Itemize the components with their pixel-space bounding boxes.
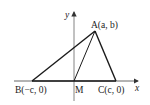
- segment-ab: [32, 31, 95, 81]
- y-axis-label: y: [64, 10, 70, 20]
- point-b-label: B(−c, 0): [15, 85, 47, 96]
- point-c-label: C(c, 0): [98, 85, 124, 96]
- segment-ac: [95, 31, 116, 81]
- x-axis-label: x: [134, 83, 140, 93]
- coordinate-diagram: y x A(a, b) B(−c, 0) M C(c, 0): [0, 0, 150, 105]
- point-a-label: A(a, b): [91, 20, 118, 31]
- point-m-label: M: [75, 85, 84, 95]
